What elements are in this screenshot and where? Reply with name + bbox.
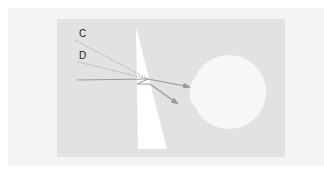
wedge-prism	[136, 27, 167, 149]
label-c: C	[79, 29, 86, 39]
refraction-diagram	[0, 0, 324, 174]
label-d: D	[79, 51, 86, 61]
target-blob	[190, 55, 266, 129]
refracted-ray	[148, 79, 190, 87]
